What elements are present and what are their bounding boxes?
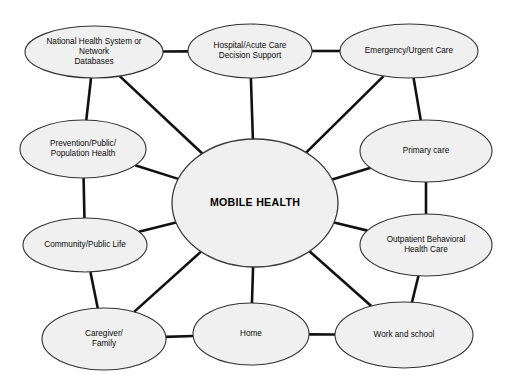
edge-hub-community — [139, 223, 176, 232]
nodes-layer: National Health System orNetworkDatabase… — [20, 24, 492, 370]
node-label-line: Primary care — [403, 146, 450, 155]
node-label: Work and school — [374, 330, 435, 339]
node-mobile-health[interactable]: MOBILE HEALTH — [172, 139, 338, 267]
node-home[interactable]: Home — [193, 303, 309, 365]
node-label: Home — [240, 329, 262, 338]
edge-hub-prevention — [135, 165, 178, 179]
edge-community-prevention — [84, 178, 85, 218]
node-label-line: Community/Public Life — [44, 240, 126, 249]
diagram-canvas: National Health System orNetworkDatabase… — [0, 0, 513, 390]
node-label-line: Health Care — [404, 245, 448, 254]
node-label-line: Work and school — [374, 330, 435, 339]
node-label-line: Home — [240, 329, 262, 338]
node-label: Emergency/Urgent Care — [365, 46, 454, 55]
edge-hub-hospital — [251, 78, 253, 139]
node-label-line: Network — [79, 47, 110, 56]
edge-caregiver-community — [90, 272, 97, 308]
node-label: Community/Public Life — [44, 240, 126, 249]
node-label-line: MOBILE HEALTH — [210, 196, 300, 208]
node-label-line: Population Health — [51, 149, 116, 158]
edge-hub-caregiver — [134, 252, 201, 312]
node-prevention-public-population-health[interactable]: Prevention/Public/Population Health — [20, 120, 146, 178]
edge-prevention-national-health — [86, 78, 91, 120]
edge-hub-primary-care — [332, 168, 370, 180]
edge-home-caregiver — [166, 336, 193, 337]
edge-hub-work-school — [309, 251, 371, 306]
node-label-line: Caregiver/ — [85, 329, 123, 338]
node-label: Prevention/Public/Population Health — [50, 139, 117, 158]
node-emergency-urgent-care[interactable]: Emergency/Urgent Care — [340, 24, 478, 78]
node-work-and-school[interactable]: Work and school — [335, 302, 473, 368]
node-label-line: Family — [92, 339, 117, 348]
edge-outpatient-work-school — [412, 276, 418, 302]
edge-hub-outpatient — [334, 222, 367, 230]
node-community-public-life[interactable]: Community/Public Life — [23, 218, 147, 272]
node-outpatient-behavioral-health-care[interactable]: Outpatient BehavioralHealth Care — [360, 214, 492, 276]
node-label: MOBILE HEALTH — [210, 196, 300, 208]
node-label-line: Prevention/Public/ — [50, 139, 117, 148]
node-label-line: Databases — [74, 57, 113, 66]
edge-emergency-primary-care — [414, 78, 421, 120]
node-label-line: Hospital/Acute Care — [214, 41, 287, 50]
node-primary-care[interactable]: Primary care — [360, 120, 492, 182]
node-label-line: National Health System or — [46, 37, 141, 46]
edge-hub-home — [252, 267, 253, 303]
node-hospital-acute-care[interactable]: Hospital/Acute CareDecision Support — [188, 24, 312, 78]
node-label: Primary care — [403, 146, 450, 155]
node-label-line: Outpatient Behavioral — [387, 235, 466, 244]
node-label-line: Decision Support — [219, 51, 282, 60]
node-label-line: Emergency/Urgent Care — [365, 46, 454, 55]
node-caregiver-family[interactable]: Caregiver/Family — [42, 308, 166, 370]
node-label: Hospital/Acute CareDecision Support — [214, 41, 287, 60]
mobile-health-network-diagram: National Health System orNetworkDatabase… — [0, 0, 513, 390]
node-national-health-system[interactable]: National Health System orNetworkDatabase… — [25, 26, 163, 78]
